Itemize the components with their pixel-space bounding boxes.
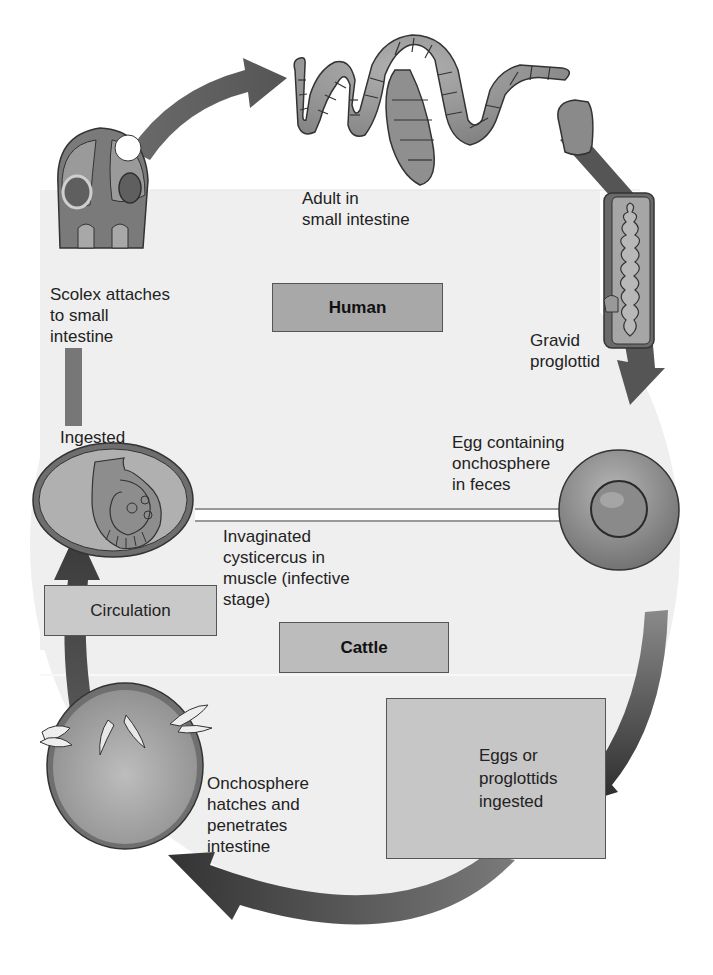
tapeworm-icon (294, 35, 593, 185)
label-ingested: Ingested (60, 427, 125, 448)
egg-icon (559, 450, 679, 570)
circulation-label: Circulation (90, 601, 170, 621)
label-egg: Egg containing onchosphere in feces (452, 432, 564, 495)
host-boundary-line (195, 509, 560, 521)
label-onchosphere: Onchosphere hatches and penetrates intes… (207, 773, 309, 857)
host-box-cattle: Cattle (279, 622, 449, 673)
circulation-box: Circulation (44, 585, 217, 636)
eggs-ingested-label: Eggs or proglottids ingested (479, 744, 557, 813)
arrow-ingested-to-scolex (65, 348, 82, 426)
host-label-human: Human (329, 298, 387, 318)
diagram-artwork (0, 0, 713, 975)
host-label-cattle: Cattle (340, 638, 387, 658)
cysticercus-icon (33, 443, 193, 557)
arrow-scolex-to-adult (130, 58, 287, 160)
label-adult: Adult in small intestine (302, 188, 410, 230)
label-gravid-proglottid: Gravid proglottid (530, 330, 600, 372)
eggs-ingested-box: Eggs or proglottids ingested (386, 698, 606, 859)
life-cycle-diagram: Adult in small intestine Gravid proglott… (0, 0, 713, 975)
proglottid-icon (604, 193, 654, 348)
label-cysticercus: Invaginated cysticercus in muscle (infec… (223, 526, 350, 610)
host-box-human: Human (272, 283, 443, 332)
scolex-icon (58, 128, 148, 248)
label-scolex: Scolex attaches to small intestine (50, 284, 170, 347)
